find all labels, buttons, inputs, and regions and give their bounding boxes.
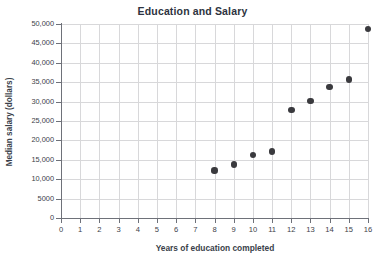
gridline-vertical <box>176 24 177 218</box>
x-axis-tick-label: 5 <box>147 225 167 234</box>
x-axis-tick <box>99 218 100 223</box>
x-axis-tick-label: 8 <box>205 225 225 234</box>
x-axis-tick-label: 10 <box>243 225 263 234</box>
data-point <box>326 84 332 90</box>
gridline-vertical <box>368 24 369 218</box>
gridline-vertical <box>138 24 139 218</box>
gridline-vertical <box>349 24 350 218</box>
x-axis-tick-label: 0 <box>51 225 71 234</box>
x-axis-tick <box>119 218 120 223</box>
y-axis-tick <box>56 63 62 64</box>
y-axis-tick <box>56 121 62 122</box>
x-axis-tick <box>195 218 196 223</box>
y-axis-tick-label: 25,000 <box>31 117 54 125</box>
y-axis-label-container: Median salary (dollars) <box>2 24 16 219</box>
data-point <box>365 26 371 32</box>
x-axis-tick <box>330 218 331 223</box>
x-axis-tick <box>176 218 177 223</box>
gridline-vertical <box>215 24 216 218</box>
data-point <box>346 76 352 82</box>
x-axis-tick <box>234 218 235 223</box>
y-axis-tick <box>56 24 62 25</box>
x-axis-tick <box>349 218 350 223</box>
y-axis-tick <box>56 102 62 103</box>
data-point <box>288 107 294 113</box>
gridline-vertical <box>234 24 235 218</box>
x-axis-tick <box>368 218 369 223</box>
x-axis-tick-label: 9 <box>224 225 244 234</box>
gridline-vertical <box>253 24 254 218</box>
y-axis-tick-label: 15,000 <box>31 156 54 164</box>
gridline-vertical <box>99 24 100 218</box>
gridline-vertical <box>272 24 273 218</box>
x-axis-tick <box>61 218 62 223</box>
x-axis-tick <box>272 218 273 223</box>
x-axis-tick <box>253 218 254 223</box>
y-axis-tick-label: 10,000 <box>31 175 54 183</box>
x-axis-tick-label: 11 <box>262 225 282 234</box>
y-axis-tick-label: 35,000 <box>31 78 54 86</box>
gridline-vertical <box>195 24 196 218</box>
gridline-vertical <box>291 24 292 218</box>
gridline-vertical <box>119 24 120 218</box>
y-axis-tick-label: 20,000 <box>31 136 54 144</box>
y-axis-label: Median salary (dollars) <box>5 77 14 166</box>
x-axis-tick-label: 16 <box>358 225 378 234</box>
x-axis-tick-label: 4 <box>128 225 148 234</box>
y-axis-tick-label: 0 <box>50 214 54 222</box>
scatter-chart-figure: Education and Salary Median salary (doll… <box>0 0 385 264</box>
gridline-vertical <box>330 24 331 218</box>
data-point <box>211 167 217 173</box>
x-axis-tick <box>80 218 81 223</box>
x-axis-tick-label: 2 <box>89 225 109 234</box>
gridline-vertical <box>157 24 158 218</box>
y-axis-tick-label: 5000 <box>38 195 54 203</box>
x-axis-tick-label: 14 <box>320 225 340 234</box>
x-axis-tick-label: 1 <box>70 225 90 234</box>
x-axis-tick-label: 6 <box>166 225 186 234</box>
x-axis-label: Years of education completed <box>60 243 370 253</box>
x-axis-tick-label: 15 <box>339 225 359 234</box>
y-axis-tick-label: 30,000 <box>31 98 54 106</box>
y-axis-tick-label: 50,000 <box>31 20 54 28</box>
x-axis-tick-label: 13 <box>300 225 320 234</box>
y-axis-tick <box>56 199 62 200</box>
y-axis-tick <box>56 160 62 161</box>
x-axis-tick-label: 7 <box>185 225 205 234</box>
y-axis-tick-label: 40,000 <box>31 59 54 67</box>
data-point <box>307 98 313 104</box>
x-axis-tick <box>138 218 139 223</box>
data-point <box>231 161 237 167</box>
x-axis-tick <box>310 218 311 223</box>
plot-area <box>61 24 368 218</box>
y-axis-tick <box>56 179 62 180</box>
x-axis-tick-label: 12 <box>281 225 301 234</box>
y-axis-tick-label: 45,000 <box>31 39 54 47</box>
y-axis-tick <box>56 140 62 141</box>
chart-title: Education and Salary <box>0 5 385 17</box>
gridline-vertical <box>310 24 311 218</box>
y-axis-tick <box>56 82 62 83</box>
x-axis-tick <box>157 218 158 223</box>
gridline-vertical <box>80 24 81 218</box>
data-point <box>250 152 256 158</box>
x-axis-tick-label: 3 <box>109 225 129 234</box>
x-axis-tick <box>291 218 292 223</box>
y-axis-tick <box>56 43 62 44</box>
x-axis-tick <box>215 218 216 223</box>
data-point <box>269 148 275 154</box>
